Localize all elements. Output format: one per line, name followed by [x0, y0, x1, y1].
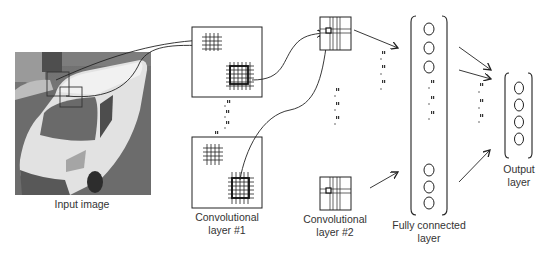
output-right-bracket [528, 73, 532, 158]
connection-conv1-conv2-a [252, 33, 324, 80]
input-image [15, 52, 151, 195]
cnn-diagram: Input image Convolutional layer #1 Convo… [0, 0, 552, 255]
output-label: Output layer [503, 163, 535, 189]
fc-left-bracket [411, 16, 416, 215]
conv1-ellipsis [215, 100, 230, 134]
input-image-label: Input image [55, 198, 110, 211]
fc-neuron [424, 61, 434, 73]
output-neuron [515, 82, 524, 94]
fc-right-bracket [442, 16, 447, 215]
fc-neuron [424, 164, 434, 176]
label-line: Fully connected [392, 219, 466, 232]
fc-label: Fully connected layer [392, 219, 466, 245]
connection-conv2-fc-b [370, 172, 398, 188]
diagram-canvas [0, 0, 552, 255]
label-line: layer [392, 232, 466, 245]
fully-connected-layer [411, 16, 447, 215]
label-line: Convolutional [195, 211, 259, 224]
fc-neuron [424, 181, 434, 193]
label-line: layer #2 [303, 226, 367, 239]
connection-conv2-fc-a [354, 30, 398, 48]
label-line: Output [503, 163, 535, 176]
fc-neuron [424, 23, 434, 35]
fc-neuron [424, 42, 434, 54]
conv2-label: Convolutional layer #2 [303, 213, 367, 239]
fc-neuron [424, 197, 434, 209]
conv1-feature-map-top [192, 27, 262, 97]
output-left-bracket [505, 73, 509, 158]
fc-ellipsis [428, 80, 434, 120]
conv2-feature-map-bottom [320, 177, 351, 210]
conv2-fc-ellipsis [380, 51, 385, 90]
connection-fc-output-c [459, 150, 490, 182]
conv2-ellipsis [334, 88, 339, 125]
output-neuron [515, 99, 524, 111]
connection-fc-output-b [459, 70, 491, 79]
conv1-feature-map-bottom [192, 137, 262, 208]
fc-output-ellipsis [478, 83, 483, 123]
label-line: Input image [55, 198, 110, 211]
connection-fc-output-a [459, 47, 491, 70]
output-neuron [515, 133, 524, 145]
label-line: layer #1 [195, 224, 259, 237]
output-neuron [515, 116, 524, 128]
label-line: Convolutional [303, 213, 367, 226]
label-line: layer [503, 176, 535, 189]
output-layer [505, 73, 532, 158]
conv2-feature-map-top [320, 17, 351, 50]
conv1-label: Convolutional layer #1 [195, 211, 259, 237]
